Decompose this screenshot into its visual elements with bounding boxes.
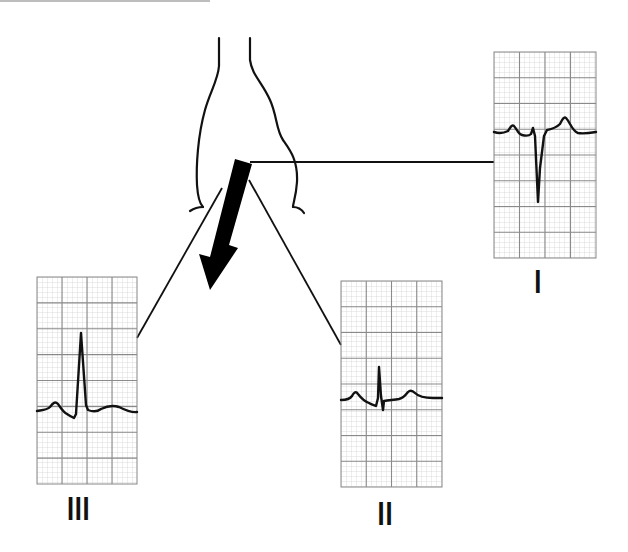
- ecg-lead-III: [37, 277, 137, 484]
- lead-II-line: [249, 180, 341, 345]
- lead-II-label: II: [378, 496, 394, 530]
- heart-outline: [190, 38, 304, 213]
- lead-I-label: I: [534, 264, 542, 298]
- ecg-axis-diagram: I II III: [0, 0, 628, 552]
- axis-arrow-icon: [199, 159, 252, 290]
- ecg-lead-II: [341, 281, 442, 487]
- ecg-lead-I: [494, 52, 596, 258]
- lead-III-label: III: [67, 491, 91, 525]
